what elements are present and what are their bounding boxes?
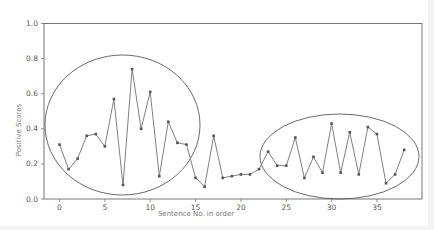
data-point-marker <box>276 164 279 167</box>
x-tick-label: 5 <box>102 203 107 212</box>
y-tick-label: 0.8 <box>26 54 38 63</box>
x-tick-label: 30 <box>327 203 337 212</box>
data-series <box>58 68 405 188</box>
data-point-marker <box>403 149 406 152</box>
data-point-marker <box>240 173 243 176</box>
data-point-marker <box>212 135 215 138</box>
plot-frame <box>44 24 422 200</box>
data-point-marker <box>376 133 379 136</box>
data-point-marker <box>194 177 197 180</box>
data-point-marker <box>294 136 297 139</box>
x-axis-label: Sentence No. in order <box>158 210 234 218</box>
line-chart: 0.00.20.40.60.81.005101520253035 Sentenc… <box>0 0 428 226</box>
data-point-marker <box>312 156 315 159</box>
data-point-marker <box>94 133 97 136</box>
chart-figure: 0.00.20.40.60.81.005101520253035 Sentenc… <box>0 0 428 226</box>
data-point-marker <box>113 98 116 101</box>
y-tick-label: 0.2 <box>26 159 38 168</box>
data-point-marker <box>321 171 324 174</box>
data-point-marker <box>231 175 234 178</box>
data-point-marker <box>358 173 361 176</box>
ellipse-annotation-left <box>45 55 200 195</box>
x-tick-label: 35 <box>372 203 382 212</box>
data-point-marker <box>104 145 107 148</box>
data-point-marker <box>267 150 270 153</box>
x-tick-label: 10 <box>145 203 155 212</box>
data-point-marker <box>348 131 351 134</box>
data-point-marker <box>58 143 61 146</box>
data-point-marker <box>185 143 188 146</box>
y-axis-label: Positive Scores <box>15 103 23 156</box>
data-point-marker <box>285 164 288 167</box>
data-point-marker <box>67 168 70 171</box>
data-point-marker <box>158 175 161 178</box>
data-point-marker <box>149 91 152 94</box>
x-tick-label: 20 <box>236 203 246 212</box>
data-point-marker <box>167 120 170 123</box>
data-point-marker <box>249 173 252 176</box>
data-point-marker <box>176 142 179 145</box>
series-line <box>60 69 405 187</box>
x-tick-label: 0 <box>57 203 62 212</box>
data-point-marker <box>140 128 143 131</box>
data-point-marker <box>122 184 125 187</box>
x-tick-label: 25 <box>281 203 291 212</box>
data-point-marker <box>394 173 397 176</box>
data-point-marker <box>131 68 134 71</box>
y-tick-label: 1.0 <box>26 19 38 28</box>
data-point-marker <box>385 182 388 185</box>
data-point-marker <box>221 177 224 180</box>
ellipse-annotation-right <box>260 114 419 199</box>
data-point-marker <box>367 126 370 129</box>
y-tick-label: 0.0 <box>26 195 38 204</box>
data-point-marker <box>203 185 206 188</box>
data-point-marker <box>339 171 342 174</box>
data-point-marker <box>85 135 88 138</box>
y-tick-label: 0.6 <box>26 89 38 98</box>
data-point-marker <box>330 122 333 125</box>
data-point-marker <box>76 157 79 160</box>
y-tick-label: 0.4 <box>26 124 38 133</box>
data-point-marker <box>303 177 306 180</box>
data-point-marker <box>258 168 261 171</box>
